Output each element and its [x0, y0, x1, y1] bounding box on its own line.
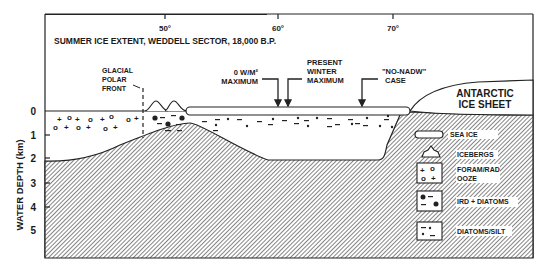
svg-text:o: o: [53, 123, 58, 132]
legend-diatoms-silt-label: DIATOMS/SILT: [457, 228, 506, 235]
legend-foram-rad-label: FORAM/RAD: [457, 166, 500, 173]
weddell-sector-diagram: 50° 60° 70° SUMMER ICE EXTENT, WEDDELL S…: [0, 0, 554, 275]
present-winter-label-2: WINTER: [307, 67, 337, 76]
y-tick-5: 5: [30, 225, 36, 236]
present-winter-label-3: MAXIMUM: [307, 76, 344, 85]
foram-rad-ooze-symbols: +o+ o+o o+ o+o +o+: [53, 112, 139, 133]
polar-front-label-2: POLAR: [102, 76, 127, 83]
y-axis-label: WATER DEPTH (km): [14, 139, 25, 230]
svg-text:o: o: [430, 164, 435, 173]
ice-sheet-label-2: ICE SHEET: [459, 99, 512, 110]
y-tick-3: 3: [30, 178, 36, 189]
ice-sheet-label-1: ANTARCTIC: [456, 88, 514, 99]
sea-ice-extent-bar: [186, 107, 410, 115]
svg-text:+: +: [86, 123, 91, 132]
polar-front-label-1: GLACIAL: [102, 67, 134, 74]
svg-text:+: +: [64, 123, 69, 132]
svg-text:o: o: [421, 174, 426, 183]
svg-text:+: +: [100, 115, 105, 124]
diagram-title: SUMMER ICE EXTENT, WEDDELL SECTOR, 18,00…: [54, 36, 276, 46]
legend-ird-diatoms-icon: [417, 191, 442, 211]
x-tick-70: 70°: [387, 24, 399, 33]
iceberg-1: [145, 101, 168, 111]
legend-diatoms-silt-icon: [417, 222, 442, 240]
svg-text:o: o: [76, 123, 81, 132]
svg-text:o: o: [109, 112, 114, 121]
y-tick-0: 0: [30, 106, 36, 117]
svg-text:+: +: [134, 114, 139, 123]
svg-text:+: +: [431, 174, 436, 183]
x-axis-ticks: 50° 60° 70°: [159, 14, 399, 33]
legend-sea-ice-label: SEA ICE: [450, 131, 478, 138]
legend-sea-ice-icon: [415, 131, 443, 138]
zero-wm2-label-2: MAXIMUM: [221, 77, 258, 86]
legend-icebergs-label: ICEBERGS: [457, 151, 494, 158]
svg-text:o: o: [126, 115, 131, 124]
svg-text:o: o: [67, 113, 72, 122]
polar-front-label-3: FRONT: [102, 85, 127, 92]
y-tick-1: 1: [30, 130, 36, 141]
diatoms-silt-symbols: [202, 115, 393, 131]
svg-text:+: +: [113, 123, 118, 132]
y-tick-4: 4: [30, 202, 36, 213]
x-tick-60: 60°: [272, 24, 284, 33]
no-nadw-label-1: "NO-NADW": [382, 67, 427, 76]
no-nadw-label-2: CASE: [385, 76, 406, 85]
present-winter-label-1: PRESENT: [307, 58, 343, 67]
y-tick-2: 2: [30, 153, 36, 164]
zero-wm2-label-1: 0 W/M²: [234, 68, 259, 77]
legend-ird-diatoms-label: IRD + DIATOMS: [457, 198, 509, 205]
legend-ooze-label: OOZE: [457, 175, 477, 182]
iceberg-2: [165, 101, 186, 111]
svg-text:o: o: [103, 124, 108, 133]
x-tick-50: 50°: [159, 24, 171, 33]
